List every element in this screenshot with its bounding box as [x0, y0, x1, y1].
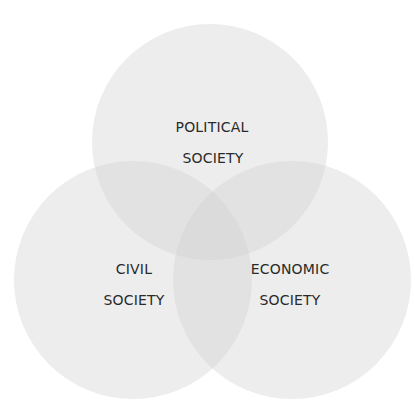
label-civil-line2: SOCIETY: [103, 293, 164, 307]
label-economic-line2: SOCIETY: [259, 293, 320, 307]
label-political-line2: SOCIETY: [182, 151, 243, 165]
label-political-line1: POLITICAL: [175, 120, 248, 134]
circle-economic-society: [173, 161, 411, 399]
venn-diagram: [0, 0, 415, 408]
label-civil-line1: CIVIL: [116, 262, 152, 276]
label-economic-line1: ECONOMIC: [251, 262, 330, 276]
